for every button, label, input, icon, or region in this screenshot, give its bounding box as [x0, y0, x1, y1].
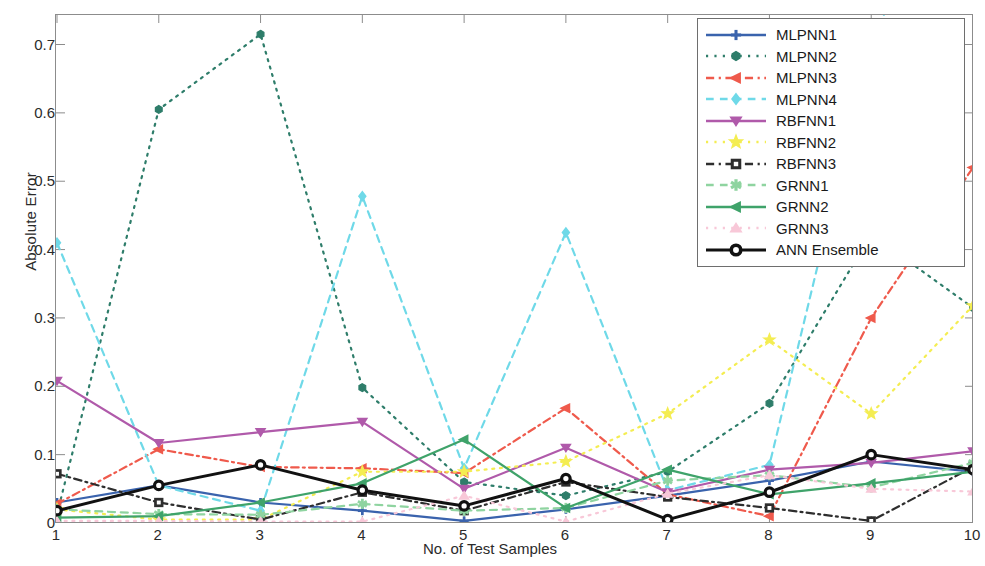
data-point — [358, 486, 367, 495]
legend-label: RBFNN3 — [768, 155, 836, 172]
data-point — [866, 314, 874, 322]
y-tick-label: 0.7 — [15, 35, 55, 52]
data-point — [967, 300, 973, 311]
legend-item-rbfnn1[interactable]: RBFNN1 — [704, 110, 956, 132]
data-point — [766, 505, 773, 512]
legend-marker — [732, 94, 740, 104]
data-point — [459, 436, 467, 444]
legend-line-sample — [704, 46, 768, 66]
legend-label: MLPNN4 — [768, 91, 837, 108]
x-tick-label: 2 — [138, 526, 178, 543]
data-point — [663, 515, 672, 523]
data-point — [256, 498, 264, 506]
data-point — [867, 450, 876, 459]
legend-label: MLPNN3 — [768, 69, 837, 86]
legend-marker — [732, 52, 740, 61]
legend-item-ann-ensemble[interactable]: ANN Ensemble — [704, 239, 956, 261]
legend-item-mlpnn4[interactable]: MLPNN4 — [704, 89, 956, 111]
legend-item-mlpnn1[interactable]: MLPNN1 — [704, 24, 956, 46]
legend-item-rbfnn3[interactable]: RBFNN3 — [704, 153, 956, 175]
data-point — [155, 106, 162, 114]
legend-line-sample — [704, 240, 768, 260]
data-point — [256, 461, 265, 470]
legend-line-sample — [704, 89, 768, 109]
x-tick-label: 5 — [443, 526, 483, 543]
legend-marker — [730, 135, 743, 147]
y-tick-label: 0.1 — [15, 445, 55, 462]
legend-line-sample — [704, 68, 768, 88]
legend-line-sample — [704, 218, 768, 238]
legend-item-mlpnn2[interactable]: MLPNN2 — [704, 46, 956, 68]
series-line — [57, 381, 973, 492]
y-tick-label: 0.3 — [15, 308, 55, 325]
data-point — [562, 474, 571, 483]
legend-line-sample — [704, 197, 768, 217]
x-tick-label: 8 — [748, 526, 788, 543]
x-tick-label: 10 — [952, 526, 985, 543]
legend-item-rbfnn2[interactable]: RBFNN2 — [704, 132, 956, 154]
data-point — [155, 481, 164, 490]
legend-label: MLPNN2 — [768, 48, 837, 65]
data-point — [359, 192, 366, 201]
legend-line-sample — [704, 132, 768, 152]
data-point — [662, 408, 673, 419]
legend-label: MLPNN1 — [768, 26, 837, 43]
data-point — [359, 384, 366, 392]
legend-item-grnn2[interactable]: GRNN2 — [704, 196, 956, 218]
x-tick-label: 3 — [240, 526, 280, 543]
legend-marker — [731, 73, 741, 82]
x-tick-label: 6 — [545, 526, 585, 543]
legend-label: RBFNN1 — [768, 112, 836, 129]
y-tick-label: 0.2 — [15, 377, 55, 394]
data-point — [56, 470, 60, 477]
y-axis-label: Absolute Error — [22, 142, 39, 302]
legend-marker — [731, 245, 741, 255]
data-point — [560, 455, 571, 466]
legend-item-grnn1[interactable]: GRNN1 — [704, 175, 956, 197]
data-point — [56, 238, 60, 247]
legend-item-mlpnn3[interactable]: MLPNN3 — [704, 67, 956, 89]
x-tick-label: 4 — [341, 526, 381, 543]
data-point — [866, 408, 877, 419]
legend-label: GRNN3 — [768, 220, 829, 237]
legend-line-sample — [704, 175, 768, 195]
data-point — [460, 492, 469, 499]
legend-item-grnn3[interactable]: GRNN3 — [704, 218, 956, 240]
x-tick-label: 1 — [36, 526, 76, 543]
legend-marker — [732, 160, 739, 167]
legend-label: ANN Ensemble — [768, 241, 879, 258]
legend-label: GRNN1 — [768, 177, 829, 194]
data-point — [765, 512, 773, 520]
data-point — [460, 502, 469, 511]
data-point — [155, 499, 162, 506]
data-point — [563, 492, 570, 500]
legend-line-sample — [704, 111, 768, 131]
data-point — [56, 506, 61, 515]
data-point — [766, 399, 773, 407]
legend-label: GRNN2 — [768, 198, 829, 215]
data-point — [257, 30, 264, 38]
y-tick-label: 0.6 — [15, 103, 55, 120]
data-point — [765, 488, 774, 497]
x-tick-label: 7 — [647, 526, 687, 543]
x-tick-label: 9 — [850, 526, 890, 543]
data-point — [868, 518, 875, 523]
legend: MLPNN1MLPNN2MLPNN3MLPNN4RBFNN1RBFNN2RBFN… — [697, 18, 965, 267]
legend-marker — [731, 202, 741, 211]
legend-line-sample — [704, 25, 768, 45]
legend-label: RBFNN2 — [768, 134, 836, 151]
legend-line-sample — [704, 154, 768, 174]
data-point — [969, 465, 973, 474]
data-point — [461, 478, 468, 486]
